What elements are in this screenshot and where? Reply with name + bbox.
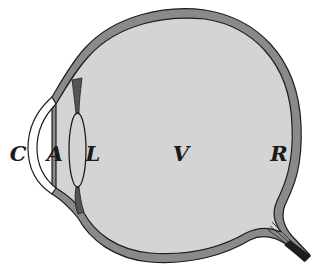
label-lens: L: [86, 143, 101, 164]
label-retina: R: [270, 143, 287, 164]
eye-diagram: C A L V R: [0, 0, 314, 275]
label-cornea: C: [10, 143, 27, 164]
lens: [69, 113, 86, 187]
label-aqueous-humor: A: [47, 143, 63, 164]
eye-interior: [56, 18, 292, 253]
label-vitreous-humor: V: [173, 143, 189, 164]
eye-cross-section-svg: [0, 0, 314, 275]
